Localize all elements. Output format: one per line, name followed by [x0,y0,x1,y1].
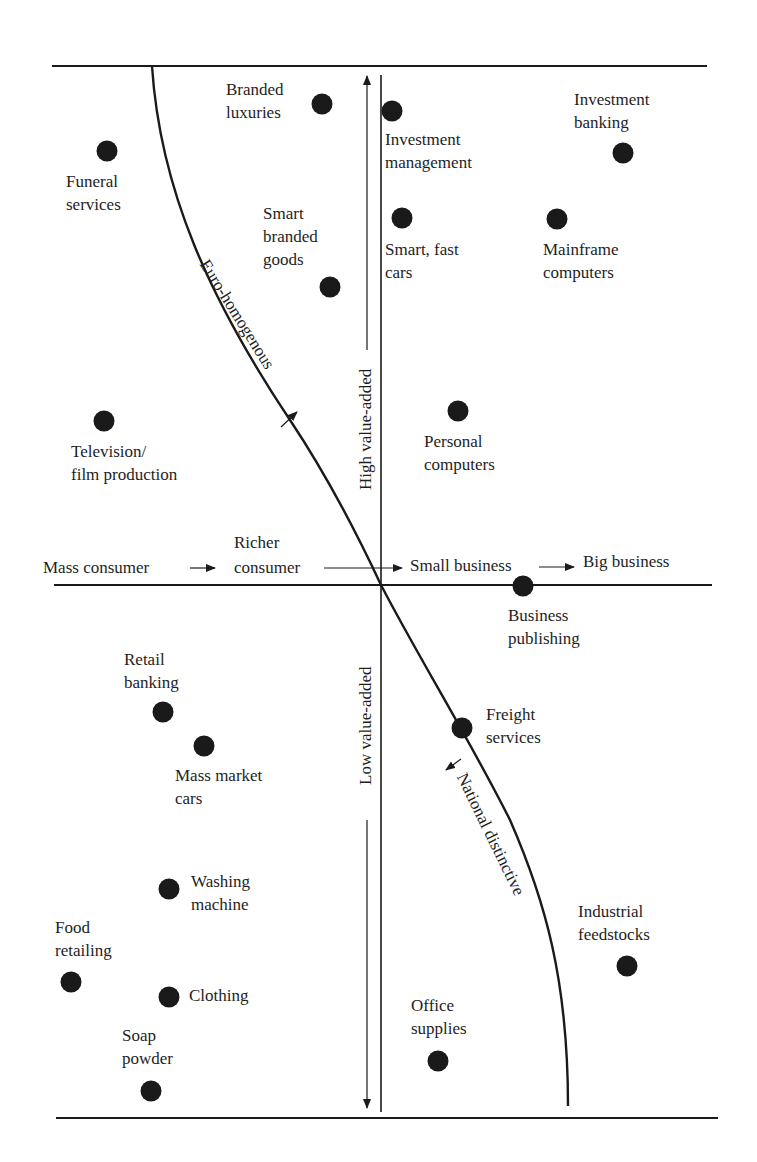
label-line: Smart [263,202,318,225]
label-business-publishing: Businesspublishing [508,604,580,650]
label-line: luxuries [226,101,284,124]
label-line: Mass market [175,764,262,787]
label-funeral-services: Funeralservices [66,170,121,216]
label-food-retailing: Foodretailing [55,916,112,962]
label-line: Industrial [578,900,650,923]
label-line: Washing [191,870,250,893]
data-point-television-film-production [94,411,115,432]
label-line: publishing [508,627,580,650]
axis-label-small-business: Small business [410,556,512,576]
label-soap-powder: Soappowder [122,1024,173,1070]
data-point-washing-machine [159,879,180,900]
label-investment-banking: Investmentbanking [574,88,650,134]
axis-label-richer-consumer-bottom: consumer [234,558,300,578]
label-mainframe-computers: Mainframecomputers [543,238,619,284]
data-point-office-supplies [428,1051,449,1072]
label-smart-fast-cars: Smart, fastcars [385,238,459,284]
label-line: Television/ [71,440,177,463]
label-line: Clothing [189,984,249,1007]
label-line: Office [411,994,467,1017]
national-distinctive-arrow [446,759,461,770]
label-line: services [66,193,121,216]
axis-label-richer-consumer-top: Richer [234,533,279,553]
label-clothing: Clothing [189,984,249,1007]
axis-label-low-value-added: Low value-added [356,667,376,785]
label-line: powder [122,1047,173,1070]
label-line: branded [263,225,318,248]
label-branded-luxuries: Brandedluxuries [226,78,284,124]
label-line: services [486,726,541,749]
label-line: supplies [411,1017,467,1040]
axis-label-high-value-added: High value-added [356,369,376,490]
label-industrial-feedstocks: Industrialfeedstocks [578,900,650,946]
label-line: machine [191,893,250,916]
label-line: Personal [424,430,495,453]
label-line: Mainframe [543,238,619,261]
label-line: Retail [124,648,179,671]
data-point-personal-computers [448,401,469,422]
data-point-investment-banking [613,143,634,164]
data-point-freight-services [452,718,473,739]
label-line: Soap [122,1024,173,1047]
label-personal-computers: Personalcomputers [424,430,495,476]
label-line: Smart, fast [385,238,459,261]
label-smart-branded-goods: Smartbrandedgoods [263,202,318,271]
label-retail-banking: Retailbanking [124,648,179,694]
label-line: Investment [574,88,650,111]
label-freight-services: Freightservices [486,703,541,749]
label-line: management [385,151,472,174]
label-line: Freight [486,703,541,726]
label-line: cars [385,261,459,284]
label-line: banking [574,111,650,134]
data-point-retail-banking [153,702,174,723]
axis-label-big-business: Big business [583,552,669,572]
label-line: film production [71,463,177,486]
data-point-food-retailing [61,972,82,993]
label-line: Funeral [66,170,121,193]
data-point-investment-management [382,101,403,122]
data-point-clothing [159,987,180,1008]
label-line: computers [424,453,495,476]
label-line: cars [175,787,262,810]
label-line: goods [263,248,318,271]
label-mass-market-cars: Mass marketcars [175,764,262,810]
label-washing-machine: Washingmachine [191,870,250,916]
label-line: feedstocks [578,923,650,946]
label-line: Investment [385,128,472,151]
data-point-business-publishing [513,576,534,597]
data-point-mass-market-cars [194,736,215,757]
diagram-canvas: Mass consumer Richer consumer Small busi… [0,0,757,1162]
label-line: Food [55,916,112,939]
label-line: Business [508,604,580,627]
label-television-film-production: Television/film production [71,440,177,486]
label-office-supplies: Officesupplies [411,994,467,1040]
label-line: banking [124,671,179,694]
label-line: Branded [226,78,284,101]
label-line: retailing [55,939,112,962]
axis-label-mass-consumer: Mass consumer [43,558,149,578]
data-point-smart-fast-cars [392,208,413,229]
euro-homogenous-arrow [281,412,297,427]
data-point-mainframe-computers [547,209,568,230]
data-point-industrial-feedstocks [617,956,638,977]
data-point-branded-luxuries [312,94,333,115]
data-point-funeral-services [97,141,118,162]
data-point-smart-branded-goods [320,277,341,298]
label-investment-management: Investmentmanagement [385,128,472,174]
label-line: computers [543,261,619,284]
data-point-soap-powder [141,1081,162,1102]
